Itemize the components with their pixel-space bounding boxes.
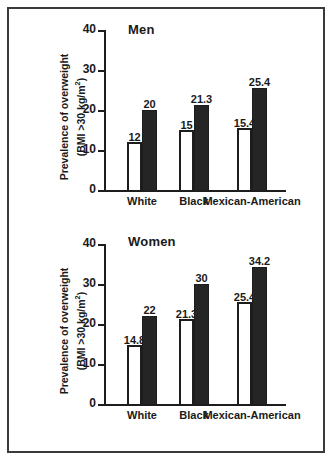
bar-filled-black: 30 <box>194 284 209 404</box>
y-axis-tick-label: 0 <box>89 182 96 196</box>
y-axis-tick-label: 10 <box>83 142 96 156</box>
y-axis-tick-label: 40 <box>83 236 96 250</box>
y-axis-tick <box>98 404 104 406</box>
y-axis-tick-label: 20 <box>83 316 96 330</box>
y-axis-label-line1: Prevalence of overweight <box>58 54 70 181</box>
y-axis-tick-label: 10 <box>83 356 96 370</box>
y-axis-tick <box>98 324 104 326</box>
bar-open-white: 14.8 <box>127 345 142 404</box>
bar-open-white: 12 <box>127 142 142 190</box>
y-axis-tick <box>98 110 104 112</box>
bar-filled-mexican-american: 25.4 <box>252 88 267 190</box>
plot-area-women: 01020304014.822White21.330Black25.434.2M… <box>104 244 286 404</box>
bar-filled-white: 22 <box>142 316 157 404</box>
y-axis-label-line2: (BMI >30 kg/m2) <box>71 32 88 202</box>
y-axis-tick-label: 30 <box>83 62 96 76</box>
y-axis-label-line2-post: ) <box>75 78 87 82</box>
bar-open-mexican-american: 15.4 <box>237 128 252 190</box>
plot-area-men: 0102030401220White1521.3Black15.425.4Mex… <box>104 30 286 190</box>
y-axis-label-line1: Prevalence of overweight <box>58 268 70 395</box>
y-axis-label-exponent: 2 <box>73 81 82 85</box>
bar-value-label: 15 <box>180 119 192 131</box>
y-axis-line <box>104 30 106 191</box>
y-axis-tick <box>98 30 104 32</box>
bar-value-label: 21.3 <box>191 93 212 105</box>
chart-panel-men: Men Prevalence of overweight (BMI >30 kg… <box>0 14 332 226</box>
bar-open-black: 21.3 <box>179 319 194 404</box>
y-axis-tick-label: 30 <box>83 276 96 290</box>
bar-filled-mexican-american: 34.2 <box>252 267 267 404</box>
y-axis-tick <box>98 364 104 366</box>
y-axis-tick <box>98 244 104 246</box>
y-axis-tick <box>98 190 104 192</box>
x-axis-line <box>104 190 286 192</box>
chart-panel-women: Women Prevalence of overweight (BMI >30 … <box>0 228 332 440</box>
y-axis-line <box>104 244 106 405</box>
bar-value-label: 34.2 <box>249 255 270 267</box>
y-axis-label-line2-post: ) <box>75 292 87 296</box>
y-axis-label-women: Prevalence of overweight (BMI >30 kg/m2) <box>58 246 92 416</box>
y-axis-tick-label: 40 <box>83 22 96 36</box>
y-axis-label-line2: (BMI >30 kg/m2) <box>71 246 88 416</box>
x-axis-line <box>104 404 286 406</box>
y-axis-tick <box>98 70 104 72</box>
bar-value-label: 20 <box>143 98 155 110</box>
bar-filled-black: 21.3 <box>194 105 209 190</box>
x-axis-category-label: Mexican-American <box>203 409 300 421</box>
bar-value-label: 12 <box>128 131 140 143</box>
y-axis-label-men: Prevalence of overweight (BMI >30 kg/m2) <box>58 32 92 202</box>
y-axis-tick-label: 0 <box>89 396 96 410</box>
y-axis-label-exponent: 2 <box>73 295 82 299</box>
figure-root: Men Prevalence of overweight (BMI >30 kg… <box>0 0 332 460</box>
y-axis-tick <box>98 284 104 286</box>
x-axis-category-label: Mexican-American <box>203 195 300 207</box>
bar-open-mexican-american: 25.4 <box>237 302 252 404</box>
bar-open-black: 15 <box>179 130 194 190</box>
bar-value-label: 30 <box>195 272 207 284</box>
bar-value-label: 25.4 <box>249 76 270 88</box>
y-axis-tick-label: 20 <box>83 102 96 116</box>
bar-value-label: 22 <box>143 304 155 316</box>
x-axis-category-label: White <box>127 409 157 421</box>
x-axis-category-label: White <box>127 195 157 207</box>
y-axis-tick <box>98 150 104 152</box>
bar-filled-white: 20 <box>142 110 157 190</box>
